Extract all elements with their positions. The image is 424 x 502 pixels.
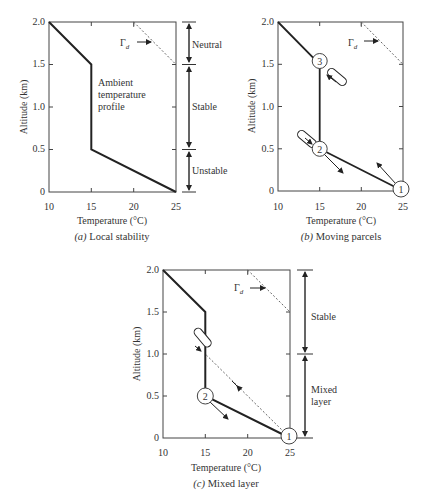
- svg-text:25: 25: [398, 201, 408, 212]
- svg-text:0: 0: [154, 432, 159, 443]
- y-axis-label: Altitude (km): [246, 79, 258, 134]
- svg-text:0.5: 0.5: [262, 143, 275, 154]
- parcel-adiabat-line: [205, 354, 290, 438]
- plot-frame: [278, 22, 403, 191]
- axis-ticks: [163, 270, 290, 438]
- y-tick-labels: 0 0.5 1.0 1.5 2.0: [33, 16, 46, 197]
- svg-text:0: 0: [40, 186, 45, 197]
- svg-text:2.0: 2.0: [33, 16, 46, 27]
- dry-adiabat-line: [134, 22, 176, 65]
- layer-label-neutral: Neutral: [192, 39, 222, 50]
- gamma-d-label: Γd: [120, 37, 130, 51]
- svg-text:15: 15: [86, 201, 96, 212]
- parcel-marker-2: 2: [312, 141, 327, 156]
- panel-caption: (a) Local stability: [74, 231, 150, 243]
- panel-c: Γd 2 1 0 0.5 1.0 1.5 2.0 10 15 20 25 Alt…: [131, 264, 340, 490]
- panel-caption: (c) Mixed layer: [193, 478, 259, 490]
- axis-ticks: [278, 22, 403, 191]
- panel-caption: (b) Moving parcels: [301, 231, 382, 243]
- svg-text:1: 1: [287, 431, 292, 442]
- svg-text:10: 10: [273, 201, 283, 212]
- svg-text:10: 10: [158, 447, 168, 458]
- svg-text:0.5: 0.5: [147, 390, 160, 401]
- svg-text:1.0: 1.0: [147, 348, 160, 359]
- x-axis-label: Temperature (°C): [77, 215, 147, 227]
- parcel-marker-1: 1: [281, 428, 297, 444]
- panel-a: Γd Ambient temperature profile 0 0.5 1.0…: [18, 16, 228, 243]
- layer-label-stable: Stable: [192, 101, 218, 112]
- parcel-marker-3: 3: [312, 54, 327, 69]
- ambient-temperature-profile: [278, 22, 403, 191]
- x-axis-label: Temperature (°C): [191, 462, 261, 474]
- x-tick-labels: 10 15 20 25: [44, 201, 181, 212]
- svg-text:1: 1: [399, 184, 404, 195]
- layer-label-stable: Stable: [311, 311, 337, 322]
- parcel-top-displacement: [193, 327, 213, 351]
- svg-text:15: 15: [200, 447, 210, 458]
- ambient-temperature-profile: [163, 270, 290, 438]
- svg-text:20: 20: [129, 201, 139, 212]
- gamma-d-label: Γd: [234, 282, 244, 296]
- svg-text:1.0: 1.0: [33, 101, 46, 112]
- svg-text:1.5: 1.5: [147, 306, 160, 317]
- y-tick-labels: 0 0.5 1.0 1.5 2.0: [147, 264, 160, 443]
- svg-text:2.0: 2.0: [147, 264, 160, 275]
- panel-b: Γd 3 2 1 0 0.5 1.0 1.5 2.0: [246, 16, 409, 243]
- svg-text:0.5: 0.5: [33, 143, 46, 154]
- y-axis-label: Altitude (km): [131, 327, 143, 382]
- arrow-icon: [210, 402, 228, 419]
- arrow-icon: [232, 381, 237, 386]
- x-tick-labels: 10 15 20 25: [158, 447, 295, 458]
- plot-frame: [163, 270, 290, 438]
- layer-label-mixed: Mixed layer: [311, 384, 340, 407]
- y-tick-labels: 0 0.5 1.0 1.5 2.0: [262, 16, 275, 196]
- x-tick-labels: 10 15 20 25: [273, 201, 408, 212]
- profile-label: Ambient temperature profile: [98, 77, 148, 112]
- arrow-icon: [324, 154, 343, 173]
- svg-text:1.5: 1.5: [33, 58, 46, 69]
- svg-text:2.0: 2.0: [262, 16, 275, 27]
- svg-text:20: 20: [243, 447, 253, 458]
- arrow-icon: [377, 163, 396, 184]
- parcel-3-displacement: [326, 67, 348, 87]
- parcel-marker-1: 1: [393, 181, 409, 197]
- dry-adiabat-line: [361, 22, 403, 64]
- x-axis-label: Temperature (°C): [306, 215, 376, 227]
- svg-text:1.5: 1.5: [262, 58, 275, 69]
- svg-text:0: 0: [269, 185, 274, 196]
- svg-text:15: 15: [315, 201, 325, 212]
- y-axis-label: Altitude (km): [18, 80, 30, 135]
- svg-text:10: 10: [44, 201, 54, 212]
- figure-canvas: Γd Ambient temperature profile 0 0.5 1.0…: [0, 0, 424, 502]
- svg-text:25: 25: [285, 447, 295, 458]
- layer-brackets: [297, 270, 313, 438]
- svg-text:3: 3: [317, 56, 322, 67]
- dry-adiabat-line: [248, 270, 290, 312]
- gamma-d-label: Γd: [348, 37, 358, 51]
- svg-text:25: 25: [171, 201, 181, 212]
- parcel-marker-2: 2: [197, 388, 213, 404]
- svg-text:20: 20: [356, 201, 366, 212]
- svg-text:2: 2: [317, 144, 322, 155]
- svg-text:2: 2: [203, 391, 208, 402]
- svg-text:1.0: 1.0: [262, 101, 275, 112]
- layer-label-unstable: Unstable: [192, 165, 228, 176]
